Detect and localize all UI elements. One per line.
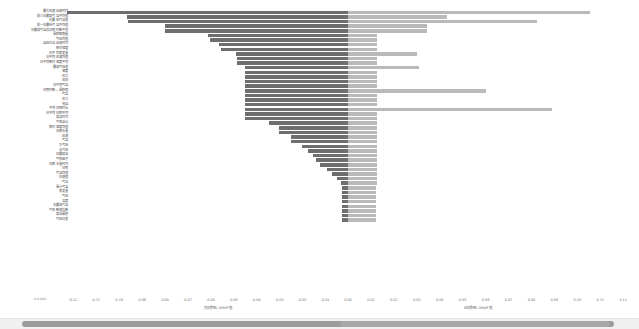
bar-positive bbox=[348, 121, 377, 125]
bar-negative bbox=[237, 57, 348, 61]
bar-positive bbox=[348, 89, 486, 93]
bar-positive bbox=[348, 98, 377, 102]
bar-negative bbox=[245, 84, 348, 88]
bar-negative bbox=[245, 80, 348, 84]
bar-negative bbox=[237, 61, 348, 65]
x-axis-tick-label: -0.09 bbox=[137, 298, 146, 303]
bar-negative bbox=[327, 168, 348, 172]
x-axis-tick-label: -0.07 bbox=[183, 298, 192, 303]
x-axis-tick-label: -0.05 bbox=[229, 298, 238, 303]
x-axis-label-positive: 正向影响—SHAP 值 bbox=[464, 306, 493, 311]
bar-positive bbox=[348, 71, 377, 75]
bar-negative bbox=[245, 112, 348, 116]
bar-negative bbox=[308, 149, 348, 153]
bar-positive bbox=[348, 43, 377, 47]
bar-positive bbox=[348, 80, 377, 84]
bar-positive bbox=[348, 168, 377, 172]
bar-negative bbox=[245, 66, 348, 70]
bar-negative bbox=[332, 172, 348, 176]
bar-positive bbox=[348, 209, 376, 213]
bar-negative bbox=[245, 71, 348, 75]
x-axis-label-negative: 负向影响—SHAP 值 bbox=[204, 306, 233, 311]
bar-negative bbox=[337, 177, 348, 181]
x-axis: -0.12-0.11-0.10-0.09-0.08-0.07-0.06-0.05… bbox=[0, 296, 639, 316]
x-axis-tick-label: 0.10 bbox=[574, 298, 582, 303]
bar-positive bbox=[348, 112, 377, 116]
bar-negative bbox=[245, 98, 348, 102]
bar-negative bbox=[165, 24, 348, 28]
x-axis-tick-label: -0.06 bbox=[206, 298, 215, 303]
x-axis-tick-label: 0.02 bbox=[390, 298, 398, 303]
bar-negative bbox=[279, 131, 348, 135]
x-axis-tick-label: -0.01 bbox=[321, 298, 330, 303]
bar-positive bbox=[348, 163, 377, 167]
x-axis-tick-label: 0.08 bbox=[528, 298, 536, 303]
x-axis-tick-label: -0.08 bbox=[160, 298, 169, 303]
bar-positive bbox=[348, 186, 376, 190]
bar-positive bbox=[348, 191, 376, 195]
x-axis-tick-label: 0.03 bbox=[413, 298, 421, 303]
bar-negative bbox=[245, 75, 348, 79]
bar-positive bbox=[348, 200, 376, 204]
category-label: 气压日差 bbox=[56, 217, 68, 222]
bar-positive bbox=[348, 126, 377, 130]
bar-negative bbox=[219, 43, 348, 47]
bar-negative bbox=[320, 163, 348, 167]
bar-negative bbox=[291, 135, 348, 139]
bar-negative bbox=[67, 11, 348, 15]
x-axis-tick-label: -0.10 bbox=[114, 298, 123, 303]
bar-positive bbox=[348, 61, 377, 65]
bar-negative bbox=[245, 108, 348, 112]
bar-positive bbox=[348, 158, 377, 162]
bar-negative bbox=[313, 154, 348, 158]
x-axis-tick-label: 0.04 bbox=[436, 298, 444, 303]
bar-negative bbox=[245, 103, 348, 107]
x-axis-tick-label: -0.11 bbox=[91, 298, 100, 303]
bar-positive bbox=[348, 214, 376, 218]
bar-positive bbox=[348, 11, 590, 15]
bar-positive bbox=[348, 34, 377, 38]
bar-negative bbox=[316, 158, 348, 162]
bar-positive bbox=[348, 145, 377, 149]
x-axis-tick-label: 0.06 bbox=[482, 298, 490, 303]
bar-positive bbox=[348, 140, 377, 144]
chart-plot-area: 最大风速出现时间前三日最高气温平均值日最低气温值前一日最低气温平均值日最高气温及… bbox=[0, 0, 639, 296]
bar-positive bbox=[348, 149, 377, 153]
x-axis-tick-label: 0.07 bbox=[505, 298, 513, 303]
bar-positive bbox=[348, 75, 377, 79]
bar-negative bbox=[128, 20, 348, 24]
bar-positive bbox=[348, 94, 377, 98]
bar-positive bbox=[348, 117, 377, 121]
bar-positive bbox=[348, 103, 377, 107]
bar-positive bbox=[348, 205, 376, 209]
bar-positive bbox=[348, 84, 377, 88]
x-axis-tick-label: 0.11 bbox=[596, 298, 604, 303]
chart-row: 气压日差 bbox=[0, 218, 639, 223]
bar-positive bbox=[348, 57, 377, 61]
bar-negative bbox=[210, 38, 348, 42]
bar-positive bbox=[348, 15, 447, 19]
bar-positive bbox=[348, 108, 552, 112]
bar-positive bbox=[348, 135, 377, 139]
bar-positive bbox=[348, 24, 427, 28]
bar-positive bbox=[348, 38, 377, 42]
bar-negative bbox=[221, 48, 348, 52]
x-axis-tick-label: -0.04 bbox=[252, 298, 261, 303]
bar-positive bbox=[348, 218, 376, 222]
x-axis-tick-label: 0.09 bbox=[551, 298, 559, 303]
x-axis-tick-label: -0.02 bbox=[298, 298, 307, 303]
bar-negative bbox=[127, 15, 348, 19]
horizontal-scrollbar[interactable] bbox=[0, 318, 639, 329]
bar-positive bbox=[348, 48, 377, 52]
bar-negative bbox=[302, 145, 348, 149]
bar-positive bbox=[348, 66, 419, 70]
x-axis-tick-label: -0.03 bbox=[275, 298, 284, 303]
bar-negative bbox=[245, 94, 348, 98]
bar-positive bbox=[348, 177, 377, 181]
bar-positive bbox=[348, 52, 417, 56]
scrollbar-thumb-secondary[interactable] bbox=[340, 321, 610, 327]
x-axis-tick-label: -0.12 bbox=[68, 298, 77, 303]
bar-negative bbox=[208, 34, 348, 38]
bar-negative bbox=[291, 140, 348, 144]
